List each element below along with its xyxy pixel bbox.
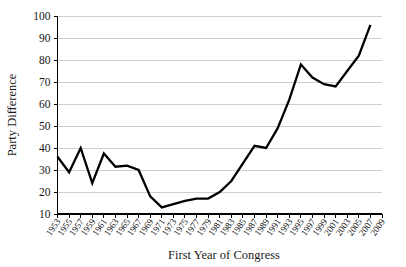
y-tick-label: 50 <box>39 120 51 132</box>
y-axis-tick-labels: 102030405060708090100 <box>33 10 51 220</box>
y-axis-title: Party Difference <box>5 73 19 156</box>
party-difference-line-chart: 102030405060708090100 195319551957195919… <box>0 0 406 267</box>
y-tick-label: 10 <box>39 208 51 220</box>
y-tick-label: 70 <box>39 76 51 88</box>
x-axis-title: First Year of Congress <box>168 248 280 262</box>
x-axis-tick-labels: 1953195519571959196119631965196719691971… <box>44 217 387 238</box>
y-tick-label: 60 <box>39 98 51 110</box>
chart-canvas: 102030405060708090100 195319551957195919… <box>0 0 406 267</box>
y-tick-label: 20 <box>39 186 51 198</box>
y-tick-label: 80 <box>39 54 51 66</box>
gridlines <box>58 16 383 192</box>
y-tick-label: 90 <box>39 32 51 44</box>
y-tick-label: 30 <box>39 164 51 176</box>
y-tick-label: 100 <box>33 10 51 22</box>
party-difference-data-line <box>58 25 371 208</box>
y-tick-label: 40 <box>39 142 51 154</box>
